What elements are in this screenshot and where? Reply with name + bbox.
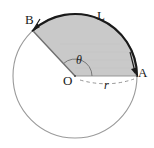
label-point-b: B [25,13,34,26]
sector-shaded-region [33,14,137,76]
label-point-a: A [138,66,147,79]
label-radius-r: r [104,79,109,91]
center-point-dot [74,75,76,77]
label-arc-length: L [97,9,105,22]
circle-sector-figure: B L A O r θ [0,0,154,148]
label-center-o: O [63,74,72,87]
figure-canvas [0,0,154,148]
label-angle-theta: θ [76,54,82,66]
